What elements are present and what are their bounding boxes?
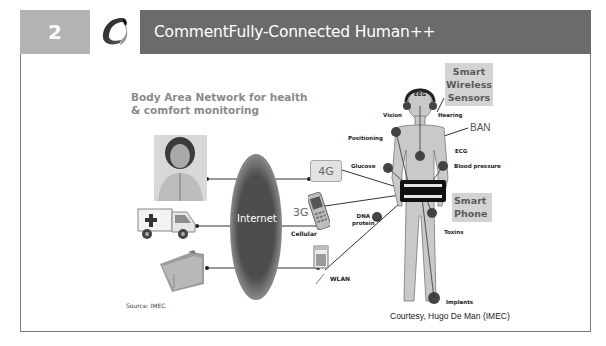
hearing-label: Hearing (438, 112, 463, 118)
positioning-label: Positioning (348, 135, 383, 141)
implants-label: Implants (446, 299, 473, 305)
person-icon (154, 135, 207, 201)
smart-sensors-line1: Smart (445, 65, 493, 78)
smart-sensors-line2: Wireless (445, 78, 493, 91)
smart-wireless-sensors-box: Smart Wireless Sensors (445, 63, 493, 106)
cell-phone (308, 191, 330, 231)
glucose-label: Glucose (351, 163, 375, 169)
human-body (382, 86, 458, 308)
folder-icon (158, 248, 208, 292)
internet-label: Internet (237, 213, 277, 224)
3g-label: 3G (293, 206, 309, 219)
protein-label: protein (352, 220, 375, 227)
ecg-label: ECG (455, 148, 467, 154)
ambulance-icon (137, 206, 199, 242)
mobile-phone-icon (308, 191, 330, 231)
source-note: Source: IMEC (126, 302, 165, 309)
ban-label: BAN (470, 122, 491, 133)
ambulance (137, 206, 199, 242)
wlan-label: WLAN (330, 275, 350, 282)
patient-photo (154, 135, 207, 201)
eeg-label: EEG (414, 91, 426, 97)
medical-records-folder (158, 248, 208, 292)
connection-lines (0, 0, 606, 346)
internet-ellipse (229, 153, 283, 301)
cellular-label: Cellular (291, 230, 317, 237)
wlan-router (312, 244, 330, 286)
human-body-figure (382, 86, 458, 308)
4g-box: 4G (310, 160, 342, 182)
blood-pressure-label: Blood pressure (454, 163, 501, 169)
toxins-label: Toxins (444, 229, 463, 235)
smart-phone-line1: Smart (454, 194, 492, 207)
internet-cloud (229, 153, 283, 301)
vision-label: Vision (383, 112, 402, 118)
smart-sensors-line3: Sensors (445, 91, 493, 104)
courtesy-note: Courtesy, Hugo De Man (IMEC) (390, 311, 510, 321)
smart-phone-line2: Phone (454, 207, 492, 220)
wireless-router-icon (312, 244, 330, 286)
smart-phone-box: Smart Phone (452, 193, 492, 222)
dna-label: DNA (352, 213, 375, 220)
dna-protein-label: DNA protein (352, 213, 375, 227)
